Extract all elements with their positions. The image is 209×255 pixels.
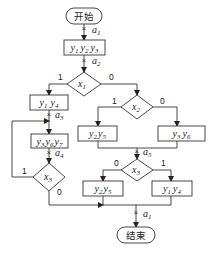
- operation-box-y1y4-left: y1y4: [30, 95, 68, 110]
- edge-c1-false: [101, 84, 137, 95]
- state-mark-a5: ×: [135, 147, 140, 156]
- operation-box-y3y6: y3y6: [158, 126, 205, 141]
- operation-box-y3y6y7: y3y6y7: [31, 134, 68, 149]
- c3-false-label: 0: [57, 187, 62, 197]
- state-label-a3: a3: [55, 109, 64, 122]
- state-mark-a1-end: ×: [134, 208, 139, 217]
- start-label: 开始: [74, 11, 94, 22]
- state-mark-a3: ×: [47, 110, 52, 119]
- c4-false-label: 0: [114, 158, 119, 168]
- c2-false-label: 0: [160, 96, 165, 106]
- end-terminal: 结束: [117, 227, 155, 243]
- state-label-a1-end: a1: [143, 208, 152, 221]
- edge-c2-true: [98, 107, 121, 126]
- edge-c2-false: [153, 107, 177, 126]
- condition-x3-right: x3: [121, 159, 153, 181]
- operation-box-y1y2y3: y1y2y3: [64, 40, 105, 55]
- c3-true-label: 1: [22, 166, 27, 176]
- state-mark-a1: ×: [82, 24, 87, 33]
- condition-x2: x2: [121, 95, 153, 119]
- edge-c1-true: [49, 84, 67, 95]
- edge-c4-false: [103, 170, 121, 181]
- state-mark-a2: ×: [82, 56, 87, 65]
- c2-true-label: 1: [112, 96, 117, 106]
- c4-true-label: 1: [161, 158, 166, 168]
- c1-false-label: 0: [109, 72, 114, 82]
- state-label-a1: a1: [92, 24, 101, 37]
- operation-box-y2y5-lower: y2y5: [83, 181, 123, 196]
- operation-box-y2y5-upper: y2y5: [78, 126, 117, 141]
- end-label: 结束: [126, 230, 146, 241]
- operation-box-y1y4-right: y1y4: [152, 181, 192, 196]
- start-terminal: 开始: [66, 8, 102, 24]
- edge-c4-true: [153, 170, 171, 181]
- condition-x1: x1: [67, 72, 101, 96]
- merge-line-lower: [103, 196, 171, 205]
- state-label-a4: a4: [55, 147, 64, 160]
- state-mark-a4: ×: [47, 148, 52, 157]
- flowchart: 开始 × a1 y1y2y3 × a2 x1 1 0 y1y4 × a3 y3y…: [0, 0, 209, 255]
- c1-true-label: 1: [58, 72, 63, 82]
- state-label-a2: a2: [92, 55, 101, 68]
